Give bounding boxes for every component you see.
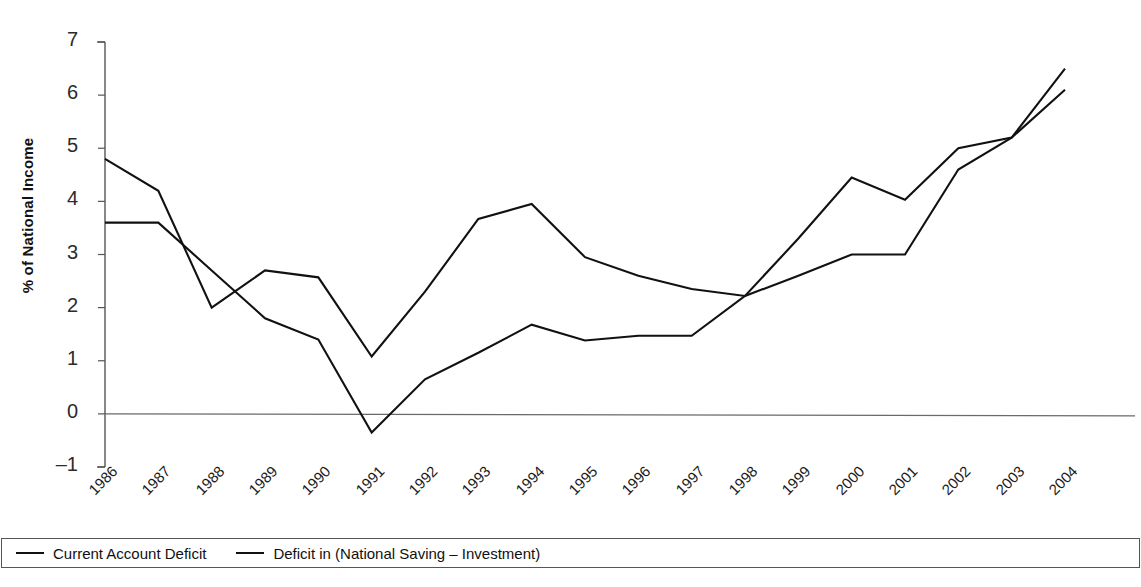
- axis-lines: [97, 42, 1135, 467]
- legend-item-label: Deficit in (National Saving – Investment…: [273, 545, 540, 562]
- plot-area: [0, 0, 1141, 587]
- legend-line-icon: [16, 552, 44, 554]
- legend-item-0[interactable]: Current Account Deficit: [16, 545, 206, 562]
- legend-item-1[interactable]: Deficit in (National Saving – Investment…: [236, 545, 540, 562]
- series-lines: [105, 69, 1065, 433]
- legend-line-icon: [236, 552, 264, 554]
- line-chart: % of National Income 76543210–1 19861987…: [0, 0, 1141, 587]
- legend-item-label: Current Account Deficit: [53, 545, 206, 562]
- zero-baseline: [105, 414, 1135, 416]
- series-line-1: [105, 69, 1065, 357]
- chart-legend: Current Account DeficitDeficit in (Natio…: [1, 538, 1140, 568]
- series-line-0: [105, 90, 1065, 433]
